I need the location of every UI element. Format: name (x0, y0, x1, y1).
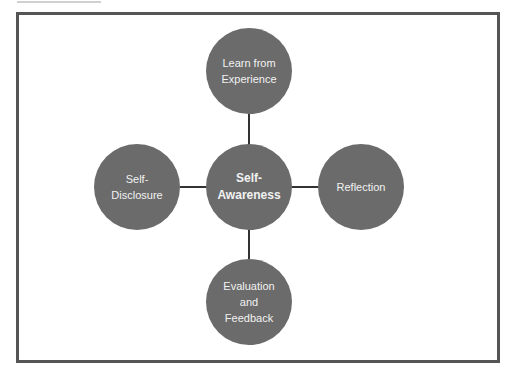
node-label: Reflection (337, 179, 386, 195)
node-self-awareness: Self- Awareness (206, 144, 292, 230)
node-label: Self- Disclosure (111, 171, 162, 203)
node-label: Evaluation and Feedback (223, 278, 274, 326)
node-self-disclosure: Self- Disclosure (94, 144, 180, 230)
node-label: Self- Awareness (217, 170, 280, 204)
connector-top (248, 114, 250, 146)
connector-bottom (248, 229, 250, 259)
connector-right (291, 186, 319, 188)
node-learn-from-experience: Learn from Experience (206, 28, 292, 114)
connector-left (180, 186, 207, 188)
header-rule (17, 1, 101, 3)
node-label: Learn from Experience (221, 55, 276, 87)
node-reflection: Reflection (318, 144, 404, 230)
node-evaluation-and-feedback: Evaluation and Feedback (206, 259, 292, 345)
